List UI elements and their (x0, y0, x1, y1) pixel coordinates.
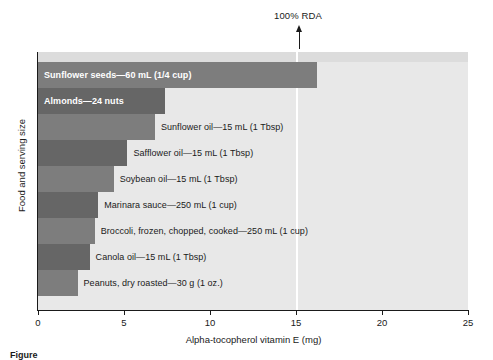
bar-row: Marinara sauce—250 mL (1 cup) (38, 192, 468, 218)
rda-arrow-icon (295, 25, 303, 49)
x-tick-mark (210, 310, 211, 315)
bar-row: Safflower oil—15 mL (1 Tbsp) (38, 140, 468, 166)
bar-label: Safflower oil—15 mL (1 Tbsp) (133, 140, 253, 166)
bar (38, 166, 114, 192)
bar-row: Peanuts, dry roasted—30 g (1 oz.) (38, 270, 468, 296)
x-axis-line (38, 310, 469, 311)
vitamin-e-bar-chart-figure: 100% RDA Sunflower seeds—60 mL (1/4 cup)… (0, 0, 493, 360)
x-tick-mark (382, 310, 383, 315)
rda-annotation: 100% RDA (258, 10, 338, 21)
bar-label: Sunflower seeds—60 mL (1/4 cup) (44, 62, 191, 88)
bar-row: Soybean oil—15 mL (1 Tbsp) (38, 166, 468, 192)
bar-label: Sunflower oil—15 mL (1 Tbsp) (161, 114, 283, 140)
bar-label: Soybean oil—15 mL (1 Tbsp) (120, 166, 238, 192)
bar (38, 270, 78, 296)
bar-row: Sunflower oil—15 mL (1 Tbsp) (38, 114, 468, 140)
x-tick-label: 20 (377, 317, 388, 328)
bar-label: Almonds—24 nuts (44, 88, 124, 114)
bar-label: Peanuts, dry roasted—30 g (1 oz.) (84, 270, 223, 296)
x-tick-label: 0 (35, 317, 40, 328)
bar-row: Almonds—24 nuts (38, 88, 468, 114)
bar-label: Canola oil—15 mL (1 Tbsp) (96, 244, 207, 270)
x-tick-label: 25 (463, 317, 474, 328)
bar (38, 218, 95, 244)
figure-caption: Figure (10, 350, 38, 360)
bar (38, 192, 98, 218)
y-axis-title: Food and serving size (16, 66, 27, 266)
x-axis-title: Alpha-tocopherol vitamin E (mg) (38, 334, 469, 345)
bar (38, 140, 127, 166)
x-tick-mark (38, 310, 39, 315)
x-tick-mark (468, 310, 469, 315)
bar-row: Sunflower seeds—60 mL (1/4 cup) (38, 62, 468, 88)
rda-label: 100% RDA (258, 10, 338, 21)
x-tick-label: 10 (205, 317, 216, 328)
bar (38, 114, 155, 140)
bar-label: Marinara sauce—250 mL (1 cup) (104, 192, 237, 218)
plot-area: Sunflower seeds—60 mL (1/4 cup)Almonds—2… (38, 52, 468, 310)
bar-label: Broccoli, frozen, chopped, cooked—250 mL… (101, 218, 308, 244)
bar-row: Broccoli, frozen, chopped, cooked—250 mL… (38, 218, 468, 244)
x-tick-label: 15 (291, 317, 302, 328)
figure-caption-text: Figure (10, 350, 38, 360)
x-tick-mark (124, 310, 125, 315)
bar (38, 244, 90, 270)
x-tick-label: 5 (121, 317, 126, 328)
plot-top-band (38, 52, 468, 62)
arrow-up-shaft (299, 30, 300, 49)
y-axis-line (37, 52, 38, 311)
bar-row: Canola oil—15 mL (1 Tbsp) (38, 244, 468, 270)
x-tick-mark (296, 310, 297, 315)
